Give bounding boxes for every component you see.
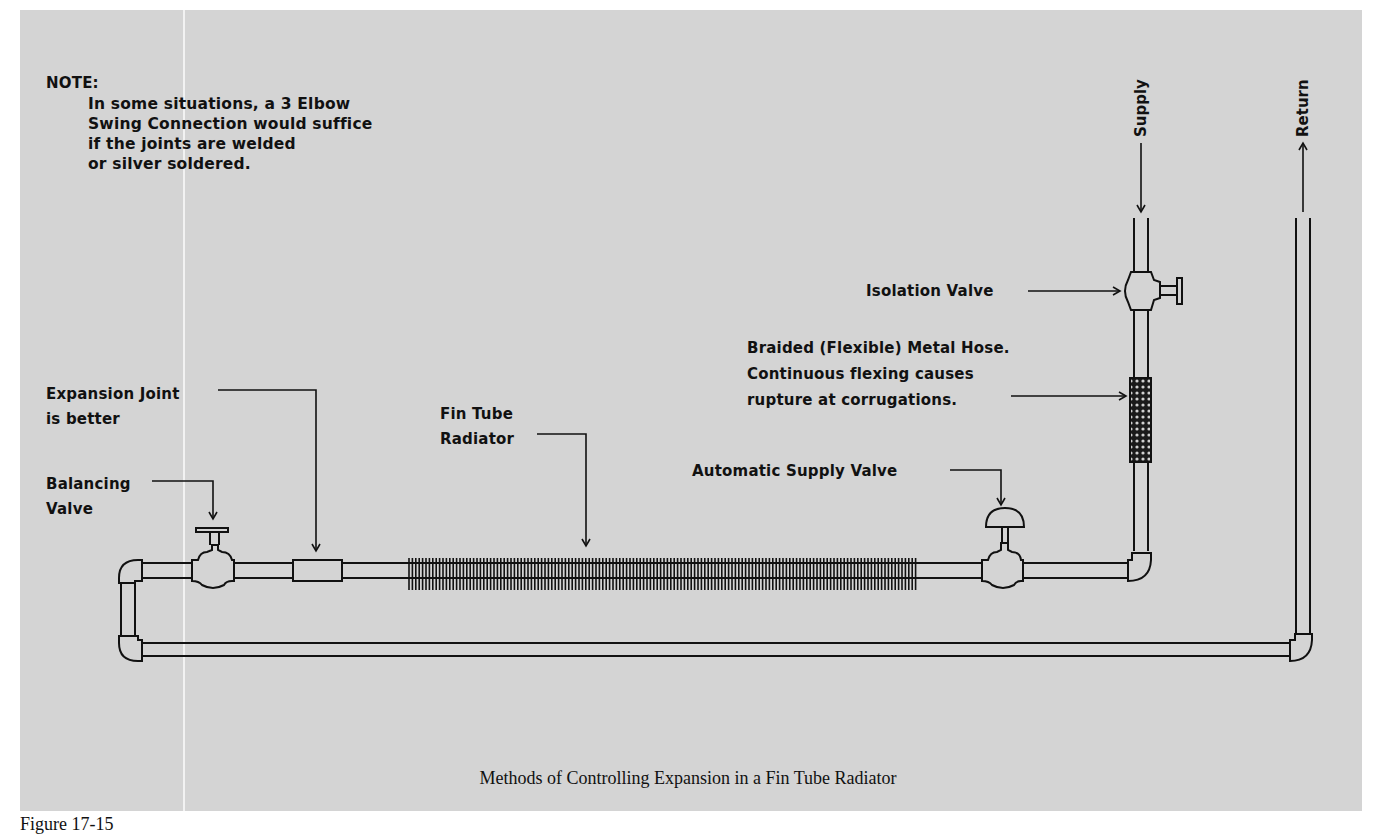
balancing-valve-line: Balancing (46, 472, 131, 497)
braided-hose-symbol (1130, 378, 1151, 462)
automatic-supply-valve-symbol (982, 508, 1024, 588)
leader-fin-tube (537, 434, 586, 546)
supply-label: Supply (1132, 79, 1150, 137)
fin-tube-radiator-label: Fin TubeRadiator (440, 402, 514, 452)
leader-automatic-supply-valve (950, 470, 1001, 505)
elbow-supply (1128, 553, 1151, 581)
isolation-valve-symbol (1125, 272, 1182, 310)
braided-hose-label: Braided (Flexible) Metal Hose.Continuous… (747, 335, 1010, 413)
braided-hose-line: Continuous flexing causes (747, 361, 1010, 387)
balancing-valve-label: BalancingValve (46, 472, 131, 522)
expansion-joint-line: Expansion Joint (46, 382, 180, 407)
lower-return-pipe (142, 643, 1290, 656)
figure-label: Figure 17-15 (20, 814, 114, 835)
balancing-valve-line: Valve (46, 497, 131, 522)
braided-hose-line: Braided (Flexible) Metal Hose. (747, 335, 1010, 361)
return-riser (1296, 218, 1310, 634)
note-title: NOTE: (46, 74, 99, 93)
fin-tube-line: Fin Tube (440, 402, 514, 427)
elbow-bottom-right (1290, 634, 1312, 661)
automatic-supply-valve-label: Automatic Supply Valve (692, 462, 897, 481)
fin-tube-line: Radiator (440, 427, 514, 452)
braided-hose-line: rupture at corrugations. (747, 387, 1010, 413)
expansion-joint-label: Expansion Jointis better (46, 382, 180, 432)
note-line: Swing Connection would suffice (88, 114, 373, 134)
return-label: Return (1294, 79, 1312, 137)
leader-balancing-valve (152, 481, 213, 519)
note-line: In some situations, a 3 Elbow (88, 94, 373, 114)
expansion-joint-line: is better (46, 407, 180, 432)
upper-pipe (142, 563, 1128, 578)
elbow-bottom-left (119, 636, 142, 661)
figure-caption: Methods of Controlling Expansion in a Fi… (0, 768, 1376, 789)
note-line: or silver soldered. (88, 154, 373, 174)
note-body: In some situations, a 3 ElbowSwing Conne… (88, 94, 373, 174)
leader-expansion-joint (218, 390, 316, 551)
expansion-joint-symbol (293, 560, 342, 581)
note-line: if the joints are welded (88, 134, 373, 154)
balancing-valve-symbol (192, 528, 234, 588)
left-riser (121, 583, 135, 636)
isolation-valve-label: Isolation Valve (866, 282, 994, 301)
elbow-top-left (119, 560, 142, 583)
